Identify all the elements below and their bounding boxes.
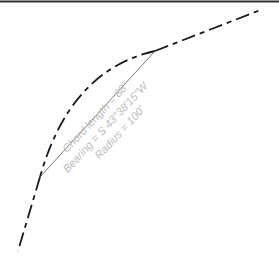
chord-annotation: Chord length = 88' Bearing = S 43°38'15"… [50, 69, 161, 184]
upper-tangent-line [155, 9, 263, 51]
curve-diagram: Chord length = 88' Bearing = S 43°38'15"… [0, 0, 279, 269]
bearing-label: Bearing = S 43°38'15"W [60, 79, 151, 175]
lower-tangent-line [18, 177, 40, 251]
